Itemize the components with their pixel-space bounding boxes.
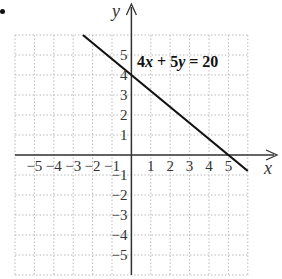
x-tick-label: −2: [85, 158, 101, 174]
x-tick-label: −5: [26, 158, 42, 174]
y-tick-label: −5: [111, 247, 127, 263]
y-tick-label: 4: [120, 67, 128, 83]
x-tick-label: 2: [166, 158, 174, 174]
equation-label: 4x + 5y = 20: [137, 53, 218, 71]
y-tick-label: −1: [111, 167, 127, 183]
y-tick-label: −4: [111, 227, 127, 243]
y-tick-label: 5: [120, 47, 128, 63]
x-tick-label: −4: [46, 158, 62, 174]
x-tick-label: 4: [205, 158, 213, 174]
x-tick-label: 3: [186, 158, 194, 174]
y-axis-label: y: [110, 1, 120, 21]
y-tick-label: 2: [120, 107, 128, 123]
y-tick-label: −3: [111, 207, 127, 223]
x-axis-label: x: [263, 158, 272, 178]
y-tick-label: 3: [120, 87, 128, 103]
y-tick-label: −2: [111, 187, 127, 203]
y-tick-label: 1: [120, 127, 128, 143]
x-tick-label: 1: [147, 158, 155, 174]
axes: [15, 4, 277, 275]
x-tick-label: 5: [225, 158, 233, 174]
coordinate-plane: −5−4−3−2−11234554321−1−2−3−4−5 x y 4x + …: [0, 0, 282, 279]
x-tick-label: −3: [65, 158, 81, 174]
